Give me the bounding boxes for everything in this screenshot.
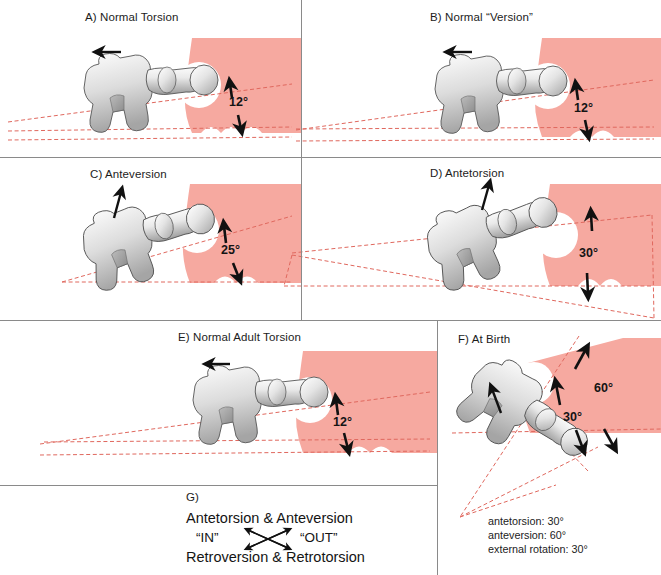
panel-e: E) Normal Adult Torsion 12° <box>0 321 437 485</box>
panel-a-art <box>0 0 301 157</box>
panel-e-angle: 12° <box>333 415 352 429</box>
panel-d-angle: 30° <box>579 246 598 260</box>
divider-row2 <box>0 320 661 321</box>
panel-g: G) Antetorsion & Anteversion “IN” “OUT” … <box>0 486 437 575</box>
panel-c-art <box>0 158 301 320</box>
panel-f-angle-inner: 30° <box>563 410 582 424</box>
panel-f-note-external-rotation: external rotation: 30° <box>488 543 588 557</box>
panel-e-art <box>0 321 437 485</box>
angle-arrow-up <box>591 214 592 231</box>
superior-arrow <box>482 185 489 210</box>
angle-arrow-down <box>587 273 588 294</box>
divider-col-top <box>301 0 302 320</box>
panel-a: A) Normal Torsion 12° <box>0 0 301 157</box>
divider-col-bottom <box>437 320 438 575</box>
panel-g-cross-arrows <box>0 486 437 575</box>
panel-a-title: A) Normal Torsion <box>85 11 179 23</box>
panel-d-title: D) Antetorsion <box>430 167 504 179</box>
figure-canvas: A) Normal Torsion 12° B) Normal “V <box>0 0 661 575</box>
panel-b-title: B) Normal “Version” <box>430 11 533 23</box>
panel-f: F) At Birth 30° 60° antetorsion: 30° ant… <box>438 321 661 575</box>
panel-b: B) Normal “Version” 12° <box>302 0 661 157</box>
panel-f-title: F) At Birth <box>458 333 510 345</box>
panel-d: D) Antetorsion 30° <box>302 158 661 320</box>
panel-d-art <box>302 158 661 320</box>
panel-c-angle: 25° <box>221 243 240 257</box>
panel-b-angle: 12° <box>574 101 593 115</box>
panel-a-angle: 12° <box>229 95 248 109</box>
panel-b-art <box>302 0 661 157</box>
panel-e-title: E) Normal Adult Torsion <box>178 331 301 343</box>
divider-row1 <box>0 157 661 158</box>
divider-row3 <box>0 485 437 486</box>
panel-f-note-anteversion: anteversion: 60° <box>488 529 566 543</box>
panel-f-angle-outer: 60° <box>594 381 613 395</box>
panel-c-title: C) Anteversion <box>90 168 167 180</box>
panel-c: C) Anteversion 25° <box>0 158 301 320</box>
panel-f-note-antetorsion: antetorsion: 30° <box>488 515 564 529</box>
